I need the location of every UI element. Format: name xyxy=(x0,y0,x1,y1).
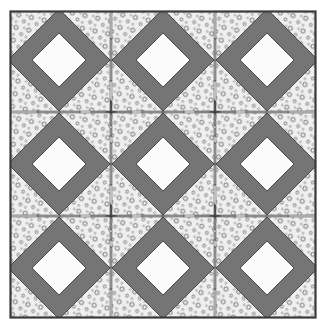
diamond-block xyxy=(216,217,318,319)
diamond-block-layer xyxy=(8,9,318,319)
diamond-block xyxy=(8,9,110,111)
diamond-block xyxy=(8,113,110,215)
diamond-block xyxy=(112,217,214,319)
quilt-field xyxy=(8,9,318,319)
quilt-pattern-image: Appliqué Flower Medallion Quilt Block Pa… xyxy=(0,0,326,329)
quilt-canvas xyxy=(0,0,326,329)
diamond-block xyxy=(112,9,214,111)
diamond-block xyxy=(112,113,214,215)
diamond-block xyxy=(8,217,110,319)
diamond-block xyxy=(216,9,318,111)
diamond-block xyxy=(216,113,318,215)
